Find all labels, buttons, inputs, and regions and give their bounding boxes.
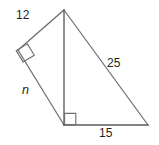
side-label-15: 15	[99, 127, 113, 139]
side-label-n: n	[22, 84, 29, 96]
side-label-25: 25	[107, 57, 121, 69]
side-label-12: 12	[16, 9, 30, 21]
right-angle-altitude-foot-icon	[65, 113, 76, 124]
right-angle-left-vertex-icon	[16, 44, 34, 62]
geometry-figure: 12 n 25 15	[0, 0, 159, 145]
segment-apex-right	[64, 10, 148, 125]
